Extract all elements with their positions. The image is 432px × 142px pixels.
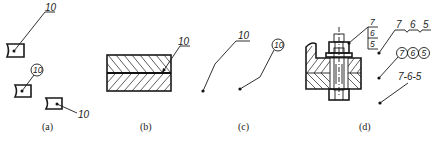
part-a1: 10	[7, 2, 57, 57]
part-a3: 10	[46, 98, 90, 120]
caption-d: (d)	[359, 121, 371, 133]
stack-label-7: 7	[370, 17, 375, 27]
group-label: 5	[423, 19, 429, 30]
part-a2: 10	[15, 64, 43, 97]
panel-a: 10 10 10	[7, 2, 90, 120]
callout-label: 10	[178, 36, 190, 47]
panel-d: 7 6 5 7 6 5 7 6 5 7-6-5	[300, 17, 431, 105]
callout-label: 10	[274, 40, 284, 50]
panel-b: 10	[100, 36, 190, 91]
callout-label: 10	[45, 2, 57, 13]
group-label: 7	[400, 48, 405, 58]
callout-label: 10	[238, 30, 250, 41]
group-label: 5	[422, 48, 427, 58]
callout-label: 10	[33, 65, 43, 75]
group-label: 6	[411, 48, 416, 58]
caption-a: (a)	[42, 121, 53, 133]
panel-c: 10 10	[201, 30, 284, 93]
group-label: 7	[396, 19, 402, 30]
callout-d-dashed: 7-6-5	[378, 71, 421, 105]
group-label: 6	[410, 19, 416, 30]
caption-c: (c)	[238, 121, 249, 133]
stack-label-5: 5	[370, 39, 375, 49]
group-label: 7-6-5	[398, 71, 422, 82]
callout-c1: 10	[201, 30, 250, 93]
callout-label: 10	[78, 109, 90, 120]
callout-c2: 10	[238, 39, 284, 91]
leader-line-diagram: 10 10 10	[0, 0, 432, 142]
caption-b: (b)	[140, 121, 152, 133]
stack-label-6: 6	[370, 28, 375, 38]
